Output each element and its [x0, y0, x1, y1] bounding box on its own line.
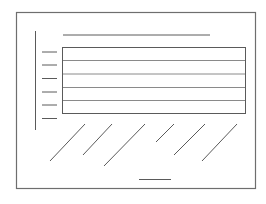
plot-area — [63, 48, 246, 114]
x-tick-label-placeholder — [174, 124, 205, 155]
x-tick-label-placeholder — [50, 124, 85, 161]
x-tick-label-placeholder — [156, 124, 174, 142]
x-tick-labels — [50, 124, 237, 166]
x-tick-label-placeholder — [83, 124, 112, 155]
y-tick-labels — [42, 52, 57, 119]
gridlines — [63, 61, 245, 101]
x-tick-label-placeholder — [202, 124, 237, 161]
x-tick-label-placeholder — [104, 124, 145, 166]
chart-wireframe — [0, 0, 266, 204]
